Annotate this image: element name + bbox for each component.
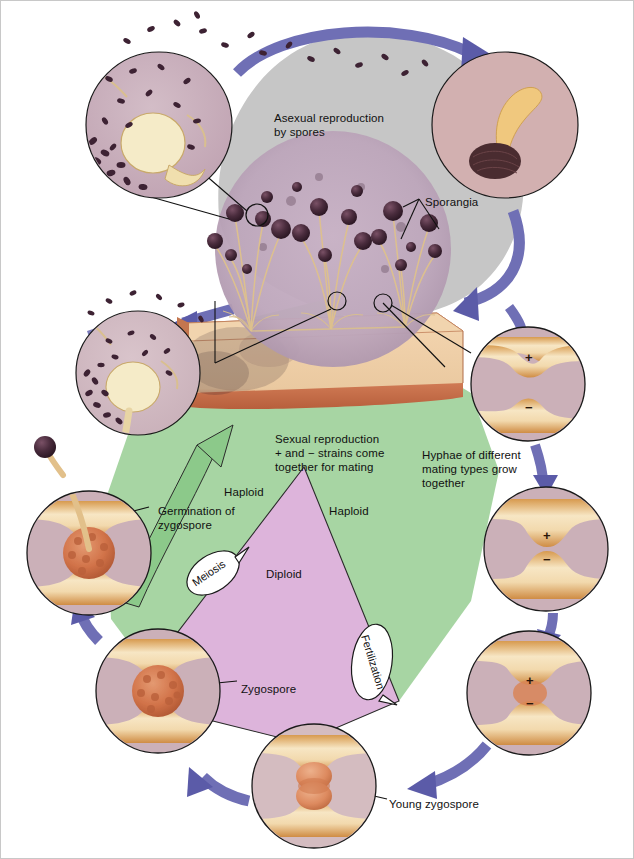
label-diploid: Diploid [266,567,302,581]
minus-sign-stage1: − [525,400,533,415]
plus-sign-stage2: + [543,528,551,543]
plus-sign-stage3: + [526,673,534,688]
label-zygospore: Zygospore [241,682,296,696]
minus-sign-stage2: − [543,552,551,567]
label-sporangia: Sporangia [425,195,478,209]
plus-sign-stage1: + [525,350,533,365]
inset-young-zygospore [251,724,381,848]
label-hyphae-mating-types: Hyphae of different mating types grow to… [422,448,521,490]
inset-hyphae-contact [481,487,613,611]
label-sexual-reproduction: Sexual reproduction + and − strains come… [275,432,384,474]
label-haploid-right: Haploid [329,504,369,518]
label-young-zygospore: Young zygospore [389,797,479,811]
minus-sign-stage3: − [526,696,534,711]
label-germination-of-zygospore: Germination of zygospore [158,504,235,532]
inset-spore-germinating [432,52,578,198]
diagram-stage: Asexual reproduction by spores Sporangia… [1,1,633,858]
figure-canvas: Asexual reproduction by spores Sporangia… [0,0,634,859]
inset-fertilization [465,631,597,755]
label-asexual-reproduction: Asexual reproduction by spores [274,111,384,139]
inset-hyphae-approach [469,327,587,441]
label-haploid-left: Haploid [224,485,264,499]
